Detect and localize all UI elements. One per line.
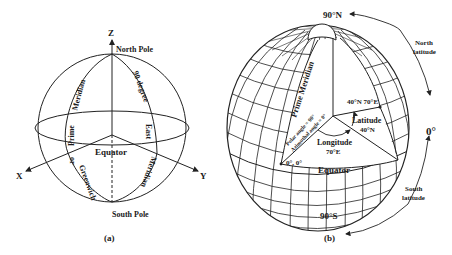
zero-degree-label: 0° <box>426 125 436 137</box>
prime-meridian-text-4: Greenwich <box>77 164 98 203</box>
origin-point <box>280 163 283 166</box>
longitude-value: 70°E <box>326 148 341 156</box>
north-pole-label: North Pole <box>116 45 154 54</box>
latitude-label: Latitude <box>352 116 382 125</box>
south-arc-lower <box>346 204 408 234</box>
south-pole-label: South Pole <box>112 210 149 219</box>
equator-label: Equator <box>95 147 127 157</box>
figure-b-globe <box>226 14 430 238</box>
north-latitude-label-2: latitude <box>413 48 436 56</box>
east-meridian-text-1: 90 degree <box>131 70 151 104</box>
origin-label: 0°, 0° <box>286 159 302 167</box>
figure-a-sphere <box>26 40 198 202</box>
point-coordinate-label: 40°N 70°E <box>347 98 378 106</box>
prime-meridian-text-3: or <box>68 157 77 165</box>
north-pole-90n-label: 90°N <box>323 10 343 20</box>
equator-label-b: Equator <box>318 165 350 175</box>
caption-a: (a) <box>104 233 115 243</box>
north-arc-join <box>384 22 400 30</box>
longitude-label: Longitude <box>317 138 353 147</box>
point-40n-70e <box>378 105 381 108</box>
north-arc-upper <box>350 14 384 22</box>
east-meridian-text-2: East <box>144 124 153 139</box>
caption-b: (b) <box>324 233 335 243</box>
south-pole-90s-label: 90°S <box>320 211 338 221</box>
latitude-value: 40°N <box>360 126 375 134</box>
z-axis-label: Z <box>108 28 114 38</box>
prime-meridian-text-1: Meridian <box>70 78 87 112</box>
south-latitude-label-1: South <box>405 185 423 193</box>
prime-meridian-text-2: Prime <box>67 125 76 146</box>
figure-canvas: Z North Pole South Pole X Y Equator Meri… <box>0 0 452 255</box>
north-latitude-label-1: North <box>415 39 433 47</box>
y-axis-label: Y <box>200 171 207 181</box>
east-meridian-text-3: Meridian <box>139 155 159 189</box>
x-axis-label: X <box>16 171 23 181</box>
south-latitude-label-2: latitude <box>402 194 425 202</box>
